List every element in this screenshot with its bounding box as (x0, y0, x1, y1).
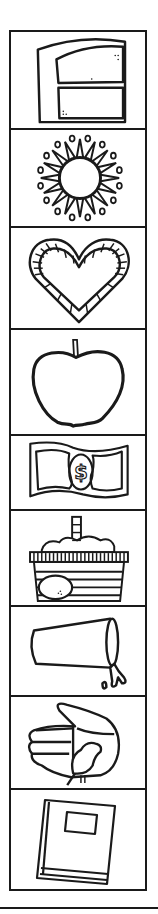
sun-dot (38, 183, 43, 189)
picture-cell-basket: basket (11, 511, 145, 607)
picture-strip: door sun heart (9, 30, 147, 891)
dollar-sign-glyph: $ (74, 461, 88, 484)
sun-ray (99, 175, 119, 182)
apple-icon (11, 330, 145, 434)
sun-dot (55, 208, 60, 214)
picture-cell-apple: apple (11, 330, 145, 436)
sun-dot (117, 167, 122, 173)
sun-ray (77, 139, 84, 159)
sun-dot (70, 214, 75, 220)
picture-cell-book: book (11, 790, 145, 889)
picture-cell-cup: cup (11, 607, 145, 697)
sun-dot (111, 153, 116, 159)
sun-dot (100, 142, 105, 148)
dollar-bill-icon: $ (11, 436, 145, 509)
sun-dot (38, 167, 43, 173)
hand-with-bird-icon (11, 697, 145, 788)
basket-icon (11, 511, 145, 605)
picture-cell-hand: hand (11, 697, 145, 790)
picture-cell-heart: heart (11, 228, 145, 330)
sun-dot (100, 208, 105, 214)
sun-dot (117, 183, 122, 189)
sun-dot (111, 197, 116, 203)
sun-dot (44, 153, 49, 159)
sun-dot (85, 136, 90, 142)
picture-cell-money: money $ (11, 436, 145, 511)
door-icon (11, 32, 145, 128)
sun-dot (85, 214, 90, 220)
spilled-cup-icon (11, 607, 145, 695)
page-bottom-rule (0, 907, 158, 909)
sun-dot (70, 136, 75, 142)
picture-cell-door: door (11, 32, 145, 130)
picture-cell-sun: sun (11, 130, 145, 228)
heart-icon (11, 228, 145, 328)
sun-dot (44, 197, 49, 203)
sun-ray (77, 197, 84, 217)
book-icon (11, 790, 145, 889)
sun-ray (41, 175, 61, 182)
sun-dot (55, 142, 60, 148)
sun-icon (11, 130, 145, 226)
